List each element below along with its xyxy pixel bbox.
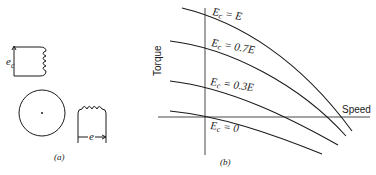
main-voltage-label: e bbox=[89, 130, 94, 142]
panel-b-caption: (b) bbox=[220, 157, 231, 167]
curve-ec-0.7e bbox=[170, 41, 346, 136]
control-winding bbox=[12, 46, 46, 76]
main-coil-icon bbox=[82, 107, 102, 110]
control-coil-icon bbox=[43, 51, 46, 71]
curve-label-ec-0.3e: Ec = 0.3E bbox=[208, 75, 254, 95]
curve-label-ec-0: Ec = 0 bbox=[209, 119, 241, 136]
y-axis-label: Torque bbox=[152, 45, 163, 76]
curve-ec-0.3e bbox=[170, 81, 338, 145]
panel-b bbox=[158, 8, 370, 155]
curve-ec-0 bbox=[170, 111, 322, 154]
x-axis-label: Speed bbox=[342, 104, 371, 115]
figure: ec e (a) Torque Speed Ec = E Ec = 0.7E E… bbox=[0, 0, 376, 175]
curve-label-ec-0.7e: Ec = 0.7E bbox=[209, 36, 256, 58]
curve-label-ec-e: Ec = E bbox=[210, 5, 243, 24]
curve-ec-e bbox=[182, 8, 352, 131]
panel-a bbox=[12, 46, 106, 143]
panel-a-caption: (a) bbox=[54, 152, 65, 162]
